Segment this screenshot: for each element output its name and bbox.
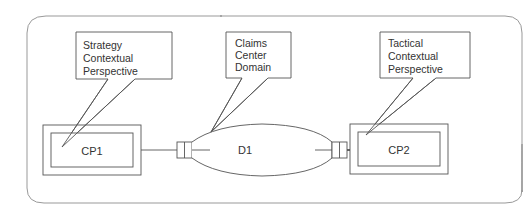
strategy-callout-line-2: Contextual	[83, 52, 133, 64]
context-map-diagram: Strategy Contextual Perspective CP1 D1	[0, 0, 525, 219]
d1-left-port-icon	[177, 142, 192, 158]
claims-callout: Claims Center Domain	[211, 32, 291, 132]
strategy-callout: Strategy Contextual Perspective	[62, 32, 172, 147]
tactical-callout-line-2: Contextual	[388, 50, 438, 62]
strategy-callout-line-1: Strategy	[83, 39, 123, 51]
d1-label: D1	[238, 144, 252, 156]
cp1-label: CP1	[81, 145, 102, 157]
claims-callout-line-1: Claims	[235, 37, 267, 49]
d1-right-port-icon	[332, 142, 347, 158]
tactical-callout-line-1: Tactical	[388, 37, 423, 49]
tactical-callout-line-3: Perspective	[388, 63, 443, 75]
claims-callout-line-3: Domain	[235, 61, 271, 73]
claims-callout-line-2: Center	[235, 49, 267, 61]
strategy-callout-line-3: Perspective	[83, 65, 138, 77]
tactical-callout: Tactical Contextual Perspective	[366, 32, 470, 135]
cp2-node: CP2	[347, 78, 448, 174]
d1-domain-node: D1	[192, 124, 332, 176]
cp1-node: CP1	[43, 79, 141, 175]
cp2-label: CP2	[388, 144, 409, 156]
